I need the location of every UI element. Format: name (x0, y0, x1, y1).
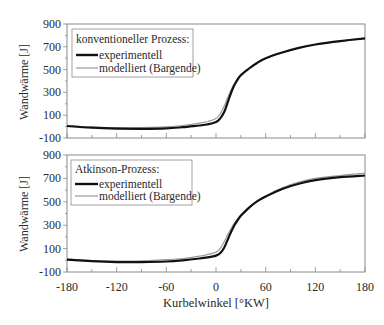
x-tick-label: -180 (56, 280, 78, 294)
panel-atkinson: 900 700 500 300 100 -100 Wandwärme [J] A… (17, 148, 374, 310)
y-tick-label: -100 (39, 265, 61, 279)
panel-konventionell: 900 700 500 300 100 -100 Wandwärme [J] k… (17, 17, 365, 145)
x-tick-label: -60 (158, 280, 174, 294)
x-axis-label: Kurbelwinkel [°KW] (163, 296, 269, 310)
legend-bottom: Atkinson-Prozess: experimentell modellie… (71, 160, 201, 205)
y-tick-label: 900 (43, 148, 61, 162)
x-tick-label: 60 (260, 280, 272, 294)
legend-label-modelliert: modelliert (Bargende) (99, 62, 201, 75)
legend-label-modelliert: modelliert (Bargende) (99, 190, 201, 203)
y-tick-label: 500 (43, 63, 61, 77)
y-tick-label: 300 (43, 85, 61, 99)
x-tick-label: 120 (306, 280, 324, 294)
x-ticks-bottom (67, 267, 365, 272)
x-tick-label: -120 (106, 280, 128, 294)
legend-label-experimentell: experimentell (99, 49, 162, 62)
y-axis-label-bottom: Wandwärme [J] (17, 176, 31, 252)
legend-title-top: konventioneller Prozess: (76, 33, 189, 45)
y-ticks-bottom (63, 155, 67, 272)
y-tick-label: 100 (43, 242, 61, 256)
y-tick-label: 500 (43, 195, 61, 209)
wall-heat-chart: 900 700 500 300 100 -100 Wandwärme [J] k… (0, 0, 384, 325)
y-tick-label: 300 (43, 218, 61, 232)
legend-top: konventioneller Prozess: experimentell m… (72, 29, 201, 77)
x-tick-label: 0 (213, 280, 219, 294)
y-ticks-top (63, 24, 67, 138)
x-tick-label: 180 (356, 280, 374, 294)
y-tick-label: -100 (39, 131, 61, 145)
y-tick-label: 900 (43, 17, 61, 31)
y-tick-label: 700 (43, 40, 61, 54)
y-tick-label: 700 (43, 171, 61, 185)
x-ticks-top (67, 133, 365, 138)
legend-title-bottom: Atkinson-Prozess: (75, 163, 159, 175)
y-axis-label-top: Wandwärme [J] (17, 44, 31, 120)
y-tick-label: 100 (43, 108, 61, 122)
